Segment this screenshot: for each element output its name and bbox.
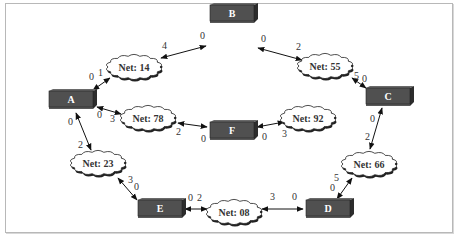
node-box-C[interactable]: C	[366, 86, 414, 106]
port-number-label: 2	[78, 139, 83, 150]
net-label: Net: 55	[310, 61, 341, 72]
port-number-label: 3	[110, 113, 115, 124]
network-cloud-net78[interactable]: Net: 78	[120, 105, 176, 132]
port-number-label: 0	[134, 181, 139, 192]
node-label: D	[324, 203, 331, 214]
box-side-face	[254, 120, 258, 140]
port-number-label: 3	[128, 174, 133, 185]
box-side-face	[410, 86, 414, 106]
port-number-label: 4	[162, 40, 167, 51]
box-side-face	[350, 198, 354, 218]
net-label: Net: 23	[83, 158, 114, 169]
net-label: Net: 08	[219, 207, 250, 218]
box-side-face	[254, 3, 258, 23]
port-number-label: 0	[200, 30, 205, 41]
network-cloud-net92[interactable]: Net: 92	[280, 105, 336, 132]
link-edge	[93, 78, 110, 90]
box-top-face	[306, 198, 354, 200]
box-top-face	[138, 198, 186, 200]
port-number-label: 1	[98, 67, 103, 78]
port-number-label: 0	[188, 192, 193, 203]
node-label: C	[384, 91, 391, 102]
node-label: E	[157, 203, 164, 214]
port-number-label: 2	[197, 192, 202, 203]
box-top-face	[366, 86, 414, 88]
network-cloud-net14[interactable]: Net: 14	[106, 54, 162, 81]
node-label: B	[229, 8, 236, 19]
port-number-label: 2	[176, 126, 181, 137]
port-number-label: 0	[262, 131, 267, 142]
port-number-label: 0	[370, 113, 375, 124]
link-edge	[161, 46, 206, 58]
node-label: A	[67, 94, 75, 105]
port-number-label: 0	[292, 191, 297, 202]
node-box-A[interactable]: A	[49, 89, 97, 109]
net-label: Net: 14	[119, 62, 150, 73]
node-box-E[interactable]: E	[138, 198, 186, 218]
network-diagram: Net: 14Net: 55Net: 78Net: 92Net: 23Net: …	[0, 0, 458, 236]
port-number-label: 0	[362, 73, 367, 84]
port-number-label: 2	[365, 131, 370, 142]
port-number-label: 3	[270, 191, 275, 202]
port-number-label: 0	[97, 109, 102, 120]
port-number-label: 0	[330, 182, 335, 193]
net-label: Net: 92	[293, 113, 324, 124]
box-top-face	[49, 89, 97, 91]
port-number-label: 5	[354, 70, 359, 81]
node-label: F	[229, 125, 235, 136]
link-edge	[257, 122, 284, 127]
nodes-layer: ABCDEF	[49, 3, 414, 218]
port-number-label: 3	[282, 128, 287, 139]
box-top-face	[210, 120, 258, 122]
link-edge	[178, 123, 207, 127]
box-side-face	[93, 89, 97, 109]
network-cloud-net55[interactable]: Net: 55	[297, 53, 353, 80]
port-number-label: 0	[89, 71, 94, 82]
port-number-label: 0	[261, 33, 266, 44]
port-number-label: 0	[201, 133, 206, 144]
port-number-label: 2	[296, 41, 301, 52]
network-cloud-net23[interactable]: Net: 23	[70, 150, 126, 177]
network-cloud-net08[interactable]: Net: 08	[206, 199, 262, 226]
link-edge	[337, 178, 352, 199]
node-box-D[interactable]: D	[306, 198, 354, 218]
box-side-face	[182, 198, 186, 218]
network-cloud-net66[interactable]: Net: 66	[341, 151, 397, 178]
port-number-label: 0	[68, 116, 73, 127]
net-label: Net: 66	[354, 159, 385, 170]
node-box-B[interactable]: B	[210, 3, 258, 23]
node-box-F[interactable]: F	[210, 120, 258, 140]
net-label: Net: 78	[133, 113, 164, 124]
